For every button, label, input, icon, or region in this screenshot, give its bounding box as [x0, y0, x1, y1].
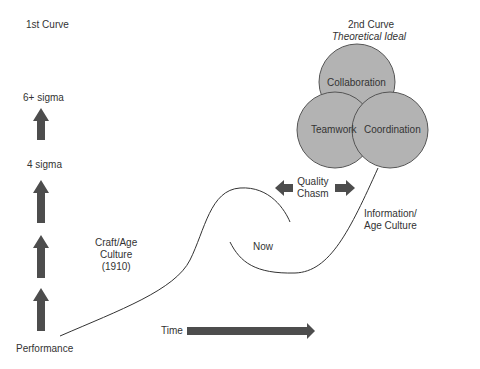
time-arrow-icon [187, 323, 315, 339]
level-4-sigma: 4 sigma [27, 159, 62, 171]
now-label: Now [253, 241, 273, 253]
collaboration-label: Collaboration [327, 77, 386, 88]
left-arrow-icon [275, 180, 293, 196]
craft-age-label: Craft/Age Culture (1910) [95, 237, 137, 273]
up-arrow-icon [33, 235, 49, 278]
quality-chasm-label: Quality Chasm [297, 176, 329, 200]
performance-label: Performance [16, 343, 73, 355]
craft-age-line-1: Craft/Age [95, 237, 137, 249]
second-curve-title-text: 2nd Curve [348, 19, 394, 31]
craft-age-line-2: Culture [95, 249, 137, 261]
time-label: Time [161, 325, 183, 337]
quality-chasm-line-2: Chasm [297, 188, 329, 200]
up-arrow-icon [33, 108, 49, 140]
first-curve-title: 1st Curve [26, 19, 69, 31]
up-arrow-icon [33, 180, 49, 223]
second-curve-subtitle: Theoretical Ideal [332, 31, 406, 43]
quality-chasm-line-1: Quality [297, 176, 329, 188]
level-6-sigma: 6+ sigma [23, 92, 64, 104]
coordination-label: Coordination [364, 124, 421, 135]
craft-age-line-3: (1910) [95, 261, 137, 273]
up-arrow-icon [33, 288, 49, 331]
right-arrow-icon [335, 180, 355, 196]
second-curve-title: 2nd Curve [348, 19, 394, 31]
information-age-label: Information/ Age Culture [364, 208, 417, 232]
teamwork-label: Teamwork [311, 124, 357, 135]
information-age-line-1: Information/ [364, 208, 417, 220]
diagram-canvas [0, 0, 480, 369]
information-age-line-2: Age Culture [364, 220, 417, 232]
